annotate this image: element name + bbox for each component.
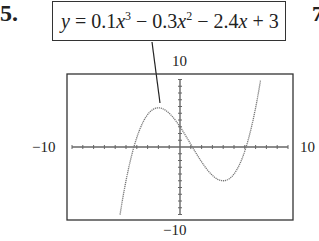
axes <box>72 80 288 215</box>
graph-svg <box>0 0 319 241</box>
leader-line <box>152 42 160 103</box>
